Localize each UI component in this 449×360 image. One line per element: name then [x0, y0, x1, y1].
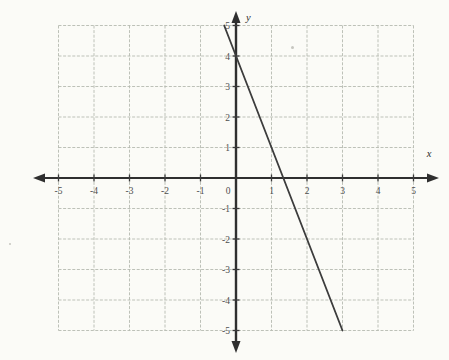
x-tick-label: -2 [161, 186, 169, 196]
y-axis-label: y [245, 12, 251, 23]
worksheet-scan: -5-4-3-2-1012345-5-4-3-2-112345xy [0, 0, 449, 360]
origin-label: 0 [226, 186, 231, 196]
y-tick-label: -4 [222, 296, 230, 306]
y-tick-label: 3 [225, 82, 230, 92]
y-tick-label: -3 [222, 265, 230, 275]
y-tick-label: 4 [225, 52, 230, 62]
y-tick-label: 1 [225, 143, 230, 153]
y-tick-label: -1 [222, 204, 230, 214]
coordinate-plane: -5-4-3-2-1012345-5-4-3-2-112345xy [0, 0, 449, 360]
y-tick-label: 2 [225, 113, 230, 123]
x-tick-label: -5 [55, 186, 63, 196]
x-axis-label: x [426, 148, 432, 159]
y-tick-label: -5 [222, 326, 230, 336]
y-tick-label: -2 [222, 235, 230, 245]
x-tick-label: -1 [197, 186, 205, 196]
x-tick-label: 5 [411, 186, 416, 196]
x-tick-label: -3 [126, 186, 134, 196]
scan-noise-dot [291, 46, 294, 49]
x-tick-label: -4 [90, 186, 98, 196]
x-tick-label: 4 [376, 186, 381, 196]
scan-noise-dot [9, 243, 11, 245]
x-tick-label: 3 [340, 186, 345, 196]
x-tick-label: 1 [269, 186, 274, 196]
x-tick-label: 2 [305, 186, 310, 196]
